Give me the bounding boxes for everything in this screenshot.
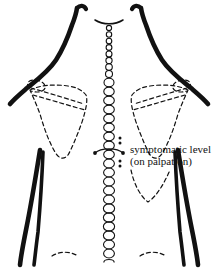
symptomatic-level-label-line1: symptomatic level bbox=[130, 143, 211, 155]
palpation-marker-dot-right bbox=[121, 151, 125, 155]
palpation-marker-dot-left bbox=[93, 151, 97, 155]
anatomy-svg: symptomatic level (on palpation) bbox=[0, 0, 218, 268]
marker-dot-below-upper bbox=[119, 160, 122, 163]
symptomatic-level-label-line2: (on palpation) bbox=[130, 155, 192, 168]
marker-dot-below-lower bbox=[119, 165, 122, 168]
figure-background bbox=[0, 0, 218, 268]
back-anatomy-figure: symptomatic level (on palpation) bbox=[0, 0, 218, 268]
marker-dot-above-lower bbox=[119, 142, 122, 145]
marker-dot-above-upper bbox=[119, 137, 122, 140]
